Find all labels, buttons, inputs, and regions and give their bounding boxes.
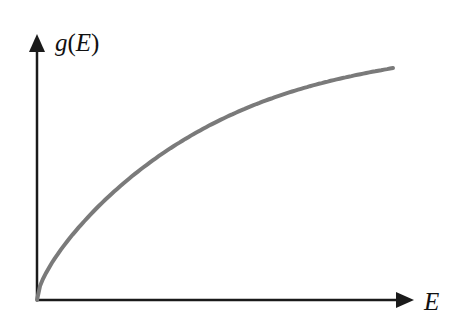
- y-axis-arrow-icon: [29, 34, 45, 52]
- density-of-states-diagram: g(E) E: [0, 0, 466, 325]
- x-axis-arrow-icon: [396, 292, 414, 308]
- y-axis-label: g(E): [55, 30, 99, 55]
- g-of-e-curve: [37, 68, 393, 300]
- x-axis-label: E: [424, 289, 439, 314]
